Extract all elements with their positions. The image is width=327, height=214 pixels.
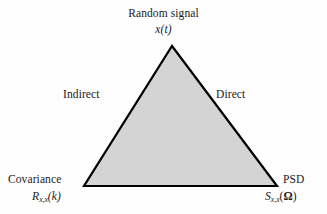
covariance-symbol-arg: (k) <box>48 190 61 202</box>
covariance-title: Covariance <box>8 173 61 186</box>
psd-title: PSD <box>283 173 304 186</box>
bottom-left-label-group: Covariance Rx,x(k) <box>8 173 61 205</box>
left-edge-label: Indirect <box>63 88 100 101</box>
apex-symbol: x(t) <box>0 23 327 36</box>
triangle-shape <box>84 46 277 186</box>
figure-container: Random signal x(t) Indirect Direct Covar… <box>0 0 327 214</box>
bottom-right-label-group: PSD Sx,x(Ω) <box>283 173 304 205</box>
psd-symbol-subscript: x,x <box>271 195 280 204</box>
psd-symbol-paren-close: ) <box>293 190 297 202</box>
apex-label-group: Random signal x(t) <box>0 7 327 36</box>
covariance-symbol: Rx,x(k) <box>8 190 61 205</box>
psd-symbol-omega: Ω <box>283 190 292 202</box>
apex-title: Random signal <box>0 7 327 20</box>
psd-symbol: Sx,x(Ω) <box>265 190 304 205</box>
right-edge-label: Direct <box>216 88 245 101</box>
covariance-symbol-subscript: x,x <box>39 195 48 204</box>
